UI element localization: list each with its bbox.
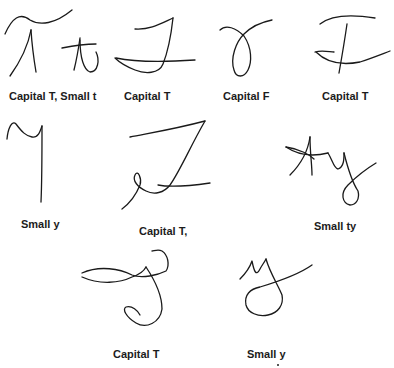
handwriting-sample-6: Capital T,: [110, 115, 220, 240]
handwriting-sample-4: Capital T: [300, 0, 394, 100]
handwriting-stroke-capital-t-small-t: [0, 0, 110, 85]
sample-label: Small y: [247, 348, 286, 360]
sample-label: Capital T: [113, 348, 159, 360]
sample-label: Capital T, Small t: [9, 90, 96, 102]
handwriting-sample-8: Capital T: [80, 245, 190, 368]
sample-label: Small ty: [314, 220, 356, 232]
handwriting-sample-7: Small ty: [270, 125, 394, 240]
handwriting-stroke-capital-t: [300, 0, 394, 85]
handwriting-stroke-capital-t-comma: [110, 115, 220, 215]
sample-label: Capital T: [124, 90, 170, 102]
stray-mark: [277, 364, 279, 366]
handwriting-stroke-small-ty: [270, 125, 394, 220]
handwriting-stroke-capital-t: [105, 0, 205, 85]
handwriting-stroke-capital-f: [200, 0, 280, 85]
sample-label: Capital F: [223, 90, 269, 102]
handwriting-sample-3: Capital F: [200, 0, 280, 100]
handwriting-sample-2: Capital T: [105, 0, 205, 100]
sample-label: Capital T,: [139, 225, 187, 237]
handwriting-stroke-capital-t: [80, 245, 190, 345]
sample-label: Small y: [21, 218, 60, 230]
handwriting-stroke-small-y: [0, 110, 70, 225]
handwriting-sample-1: Capital T, Small t: [0, 0, 110, 100]
handwriting-sample-5: Small y: [0, 110, 70, 240]
handwriting-stroke-small-y: [220, 245, 330, 345]
sample-label: Capital T: [322, 90, 368, 102]
handwriting-sample-9: Small y: [220, 245, 330, 368]
